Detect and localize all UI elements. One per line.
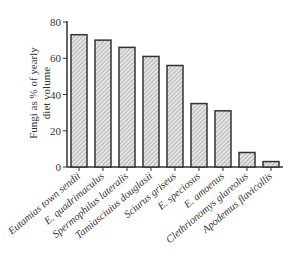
y-axis-label: Fungi as % of yearly diet volume xyxy=(27,13,53,173)
y-axis-label-line-2: diet volume xyxy=(40,13,53,173)
bar xyxy=(71,35,87,167)
bar xyxy=(239,153,255,168)
y-axis-label-line-1: Fungi as % of yearly xyxy=(27,13,40,173)
bars xyxy=(71,35,279,167)
bar xyxy=(263,162,279,167)
x-tick-labels: Eutamias town sendiiE. quadrimaculusSper… xyxy=(5,170,274,245)
bar xyxy=(167,66,183,168)
bar-chart: Fungi as % of yearly diet volume 0204060… xyxy=(0,0,298,280)
bar xyxy=(215,111,231,167)
bar xyxy=(95,40,111,167)
bar xyxy=(119,47,135,167)
bar xyxy=(191,104,207,167)
bar xyxy=(143,56,159,167)
y-tick-label: 0 xyxy=(56,161,62,173)
